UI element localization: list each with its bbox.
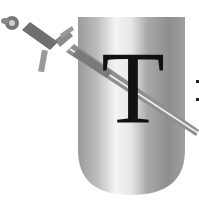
logo-emblem: T: [0, 0, 199, 203]
dot-mark: [196, 98, 199, 101]
dot-mark: [196, 80, 199, 83]
emblem-letter: T: [98, 36, 168, 140]
